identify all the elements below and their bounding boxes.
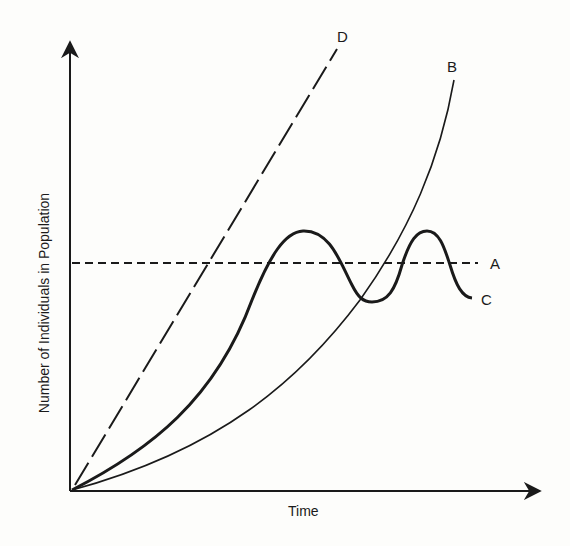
label-d: D — [337, 28, 348, 45]
label-b: B — [447, 58, 457, 75]
x-axis-label: Time — [288, 503, 319, 519]
population-growth-diagram: D B A C Time Number of Individuals in Po… — [0, 0, 570, 546]
curve-b — [72, 80, 454, 490]
curve-d — [75, 49, 337, 485]
curve-c — [72, 231, 472, 490]
label-c: C — [481, 291, 492, 308]
label-a: A — [490, 255, 500, 272]
y-axis-label: Number of Individuals in Population — [36, 193, 52, 413]
axes — [70, 42, 540, 491]
